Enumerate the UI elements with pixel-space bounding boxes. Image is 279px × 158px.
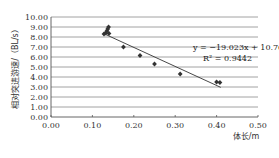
y-tick-label: 10.00	[25, 13, 48, 22]
y-tick-label: 7.00	[30, 43, 48, 52]
x-tick-label: 0.50	[249, 121, 267, 130]
y-tick-label: 5.00	[30, 63, 48, 72]
x-tick-label: 0.20	[125, 121, 143, 130]
data-point-diamond	[178, 72, 183, 77]
y-tick-label: 8.00	[30, 33, 48, 42]
x-tick-label: 0.00	[42, 121, 60, 130]
y-tick-label: 4.00	[30, 73, 48, 82]
x-tick-label: 0.10	[83, 121, 101, 130]
x-tick-label: 0.40	[208, 121, 226, 130]
x-tick-label: 0.30	[166, 121, 184, 130]
y-axis-ticks: 0.001.002.003.004.005.006.007.008.009.00…	[25, 13, 48, 122]
y-tick-label: 9.00	[30, 23, 48, 32]
y-tick-label: 3.00	[30, 83, 48, 92]
r-squared-label: R² = 0.9442	[203, 54, 252, 63]
y-axis-label: 相对突进游速/（BL/s）	[10, 25, 20, 109]
x-axis-label: 体长/m	[233, 131, 260, 141]
y-tick-label: 6.00	[30, 53, 48, 62]
y-tick-label: 2.00	[30, 93, 48, 102]
data-point-diamond	[121, 45, 126, 50]
data-point-diamond	[152, 62, 157, 67]
data-point-diamond	[218, 80, 223, 85]
regression-equation: y = −19.023x + 10.762	[192, 43, 279, 52]
scatter-chart: 0.001.002.003.004.005.006.007.008.009.00…	[0, 0, 279, 158]
y-tick-label: 1.00	[30, 103, 48, 112]
